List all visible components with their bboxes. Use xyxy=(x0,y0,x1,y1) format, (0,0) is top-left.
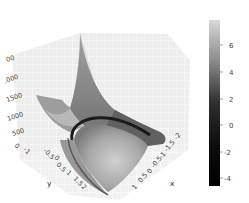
colorbar-gradient xyxy=(209,20,220,186)
colorbar-tick: 0 xyxy=(229,122,233,130)
colorbar: 6 4 2 0 -2 -4 xyxy=(209,20,234,186)
surface-plot[interactable]: 00 ,000 1500 1000 500 0 -1 -0.5 0 0.5 1 … xyxy=(0,0,249,203)
colorbar-tick: -4 xyxy=(224,175,232,183)
x-axis-label: x xyxy=(170,179,175,188)
colorbar-tick: 6 xyxy=(229,42,234,50)
colorbar-tick: -2 xyxy=(224,149,231,157)
y-axis-label: y xyxy=(47,179,52,188)
colorbar-tick: 4 xyxy=(229,69,234,77)
colorbar-tick: 2 xyxy=(229,96,233,104)
